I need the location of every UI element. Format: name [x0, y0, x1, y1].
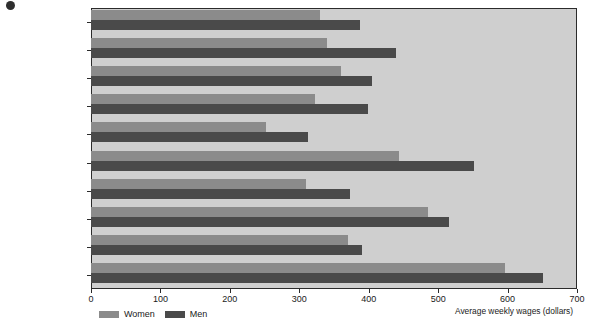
bar-women	[91, 179, 306, 189]
corner-mark-icon	[6, 1, 15, 10]
x-axis-tick	[438, 289, 439, 293]
x-axis-tick	[230, 289, 231, 293]
bar-women	[91, 151, 399, 161]
chart-row: Order clerk	[91, 177, 577, 205]
y-axis-tick	[87, 163, 91, 164]
bar-women	[91, 66, 341, 76]
legend-item-men: Men	[165, 309, 208, 319]
x-axis-tick-label: 400	[361, 294, 376, 304]
x-axis-tick	[160, 289, 161, 293]
x-axis-tick-label: 500	[431, 294, 446, 304]
bar-men	[91, 245, 362, 255]
x-axis-tick-label: 700	[569, 294, 584, 304]
x-axis-tick-label: 200	[222, 294, 237, 304]
y-axis-tick	[87, 247, 91, 248]
x-axis-tick-label: 0	[88, 294, 93, 304]
legend-label: Women	[124, 309, 155, 319]
y-axis-tick	[87, 50, 91, 51]
chart-row: Accounting clerk	[91, 8, 577, 36]
x-axis-tick	[577, 289, 578, 293]
chart-row: Secretary	[91, 233, 577, 261]
bar-men	[91, 132, 308, 142]
chart-row: File clerk	[91, 120, 577, 148]
x-axis-tick-label: 100	[153, 294, 168, 304]
chart-page: Accounting clerkBookkeeperComputer opera…	[0, 0, 590, 327]
bar-women	[91, 94, 315, 104]
y-axis-tick	[87, 106, 91, 107]
legend-swatch-icon	[165, 311, 185, 318]
x-axis-tick	[299, 289, 300, 293]
bar-women	[91, 235, 348, 245]
y-axis-tick	[87, 275, 91, 276]
bar-women	[91, 38, 327, 48]
bar-women	[91, 122, 266, 132]
bar-women	[91, 263, 505, 273]
legend-item-women: Women	[99, 309, 155, 319]
x-axis-title: Average weekly wages (dollars)	[455, 306, 573, 316]
bar-men	[91, 189, 350, 199]
chart-row: Programmer	[91, 205, 577, 233]
chart-row: Computer operator	[91, 64, 577, 92]
bar-men	[91, 48, 396, 58]
bar-men	[91, 20, 360, 30]
y-axis-tick	[87, 219, 91, 220]
bar-women	[91, 10, 320, 20]
y-axis-tick	[87, 22, 91, 23]
x-axis-tick	[369, 289, 370, 293]
legend-swatch-icon	[99, 311, 119, 318]
y-axis-tick	[87, 191, 91, 192]
x-axis-tick	[91, 289, 92, 293]
bar-women	[91, 207, 428, 217]
bar-men	[91, 104, 368, 114]
x-axis-tick-label: 600	[500, 294, 515, 304]
y-axis-tick	[87, 78, 91, 79]
x-axis-tick	[508, 289, 509, 293]
chart-row: Cost clerk	[91, 92, 577, 120]
x-axis-tick-label: 300	[292, 294, 307, 304]
chart-row: Bookkeeper	[91, 36, 577, 64]
bar-men	[91, 273, 543, 283]
chart-row: Office Manager	[91, 149, 577, 177]
chart-legend: WomenMen	[99, 309, 207, 319]
bar-men	[91, 76, 372, 86]
chart-row: Systems analyst	[91, 261, 577, 289]
bar-men	[91, 161, 474, 171]
y-axis-tick	[87, 134, 91, 135]
legend-label: Men	[190, 309, 208, 319]
bar-men	[91, 217, 449, 227]
